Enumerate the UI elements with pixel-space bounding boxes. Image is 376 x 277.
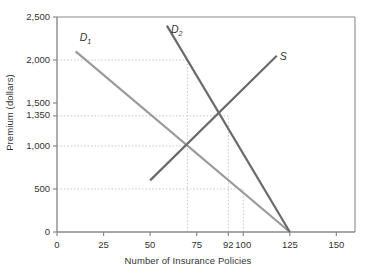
curve-label-S: S: [280, 50, 287, 62]
y-tick-label-1350: 1,350: [26, 109, 50, 120]
y-axis-label: Premium (dollars): [0, 0, 20, 225]
x-tick-label-100: 100: [223, 239, 263, 250]
x-tick-label-125: 125: [270, 239, 310, 250]
y-tick-label-0: 0: [45, 226, 50, 237]
x-tick-label-50: 50: [130, 239, 170, 250]
x-axis-label: Number of Insurance Policies: [0, 255, 376, 266]
curve-label-D1: D1: [80, 31, 92, 45]
curve-S: [150, 56, 277, 181]
y-tick-label-1500: 1,500: [26, 97, 50, 108]
x-tick-label-25: 25: [84, 239, 124, 250]
y-tick-label-500: 500: [34, 183, 50, 194]
curve-label-D2: D2: [171, 23, 183, 37]
chart-plot-area: [0, 0, 376, 277]
y-tick-label-2000: 2,000: [26, 54, 50, 65]
curve-label-S-text: S: [280, 50, 287, 62]
y-tick-label-1000: 1,000: [26, 140, 50, 151]
curve-label-D2-subscript: 2: [178, 30, 182, 37]
y-tick-label-2500: 2,500: [26, 11, 50, 22]
insurance-market-supply-demand-chart: Premium (dollars) Number of Insurance Po…: [0, 0, 376, 277]
curve-label-D1-subscript: 1: [87, 38, 91, 45]
y-axis-label-text: Premium (dollars): [4, 74, 15, 151]
curve-D1: [76, 51, 290, 232]
x-tick-label-0: 0: [37, 239, 77, 250]
x-tick-label-150: 150: [316, 239, 356, 250]
